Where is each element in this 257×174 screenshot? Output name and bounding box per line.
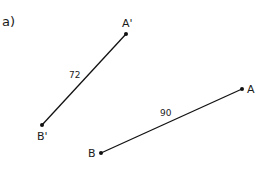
label-b: B: [88, 148, 96, 159]
segment-a-prime-b-prime: [42, 34, 126, 125]
point-a-prime-dot: [124, 32, 128, 36]
point-a-dot: [240, 87, 244, 91]
label-a-prime: A': [122, 18, 133, 29]
part-label: a): [2, 15, 15, 28]
label-a: A: [247, 84, 255, 95]
length-label-72: 72: [69, 71, 80, 80]
point-b-dot: [99, 151, 103, 155]
point-b-prime-dot: [40, 123, 44, 127]
length-label-90: 90: [160, 109, 171, 118]
segment-ab: [101, 89, 242, 153]
label-b-prime: B': [37, 131, 48, 142]
